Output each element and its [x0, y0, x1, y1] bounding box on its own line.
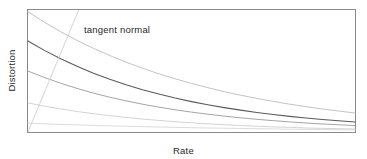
y-axis-label: Distortion [6, 49, 17, 91]
rate-distortion-figure: Distortion Rate tangent normal [0, 0, 367, 159]
x-axis-label: Rate [0, 145, 367, 156]
tangent-normal-annotation: tangent normal [84, 24, 150, 35]
plot-canvas [0, 0, 367, 159]
y-axis-label-container: Distortion [0, 0, 22, 140]
plot-frame [28, 10, 356, 133]
